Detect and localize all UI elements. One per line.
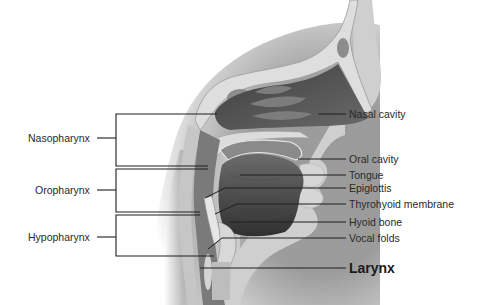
label-larynx: Larynx xyxy=(349,260,395,276)
label-oropharynx: Oropharynx xyxy=(35,184,90,196)
anatomy-illustration xyxy=(0,0,484,305)
label-vocal-folds: Vocal folds xyxy=(349,232,400,244)
label-nasopharynx: Nasopharynx xyxy=(28,132,90,144)
label-nasal-cavity: Nasal cavity xyxy=(349,108,406,120)
label-tongue: Tongue xyxy=(349,169,383,181)
label-hyoid-bone: Hyoid bone xyxy=(349,216,402,228)
label-epiglottis: Epiglottis xyxy=(349,182,392,194)
label-thyrohyoid-membrane: Thyrohyoid membrane xyxy=(349,198,454,210)
label-hypopharynx: Hypopharynx xyxy=(28,231,90,243)
label-oral-cavity: Oral cavity xyxy=(349,153,399,165)
